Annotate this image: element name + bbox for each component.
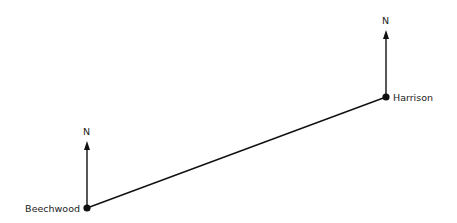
harrison-north-label: N xyxy=(382,15,389,26)
harrison-point xyxy=(382,93,389,100)
connecting-line xyxy=(87,97,386,208)
bearing-diagram: N Beechwood N Harrison xyxy=(0,0,457,223)
beechwood-point xyxy=(83,204,90,211)
beechwood-north-label: N xyxy=(83,126,90,137)
harrison-label: Harrison xyxy=(393,92,433,103)
beechwood-north-arrow xyxy=(84,141,90,208)
harrison-north-arrow xyxy=(383,30,389,97)
beechwood-label: Beechwood xyxy=(25,203,80,214)
